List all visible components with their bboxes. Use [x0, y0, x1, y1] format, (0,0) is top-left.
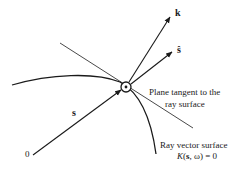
s-vector-arrow [33, 90, 121, 155]
point-marker-icon [121, 82, 131, 92]
s-hat-label: ŝ [177, 45, 181, 55]
surface-equation: K(s, ω) = 0 [177, 152, 217, 161]
k-label: k [175, 8, 181, 18]
eq-rest: , ω) = 0 [190, 151, 218, 161]
s-hat-vector-arrow [131, 52, 172, 84]
tangent-plane-label-line1: Plane tangent to the [149, 88, 220, 97]
ray-surface-curve [12, 76, 156, 154]
s-label: s [72, 108, 76, 118]
surface-label-line1: Ray vector surface [160, 141, 227, 150]
tangent-plane-label-line2: ray surface [165, 100, 205, 109]
k-vector-arrow [129, 17, 170, 82]
origin-label: 0 [25, 150, 30, 159]
